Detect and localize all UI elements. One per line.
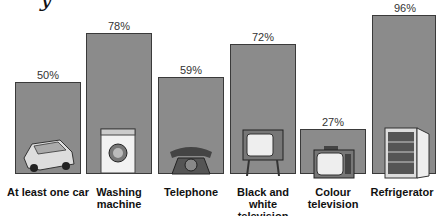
title-fragment: y (40, 0, 52, 11)
value-label: 27% (300, 116, 366, 128)
washing-machine-icon (99, 125, 139, 175)
category-label: Washing machine (82, 186, 156, 210)
value-label: 78% (86, 20, 152, 32)
colour-tv-icon (312, 146, 356, 180)
category-label: Black and white television (225, 186, 301, 216)
value-label: 50% (15, 69, 81, 81)
value-label: 59% (158, 64, 224, 76)
refrigerator-icon (383, 126, 431, 180)
value-label: 96% (372, 2, 436, 14)
category-label: Colour television (296, 186, 370, 210)
category-label: Telephone (150, 186, 232, 198)
black-white-tv-icon (241, 128, 285, 178)
car-icon (20, 128, 76, 178)
category-label: Refrigerator (364, 186, 436, 198)
value-label: 72% (230, 31, 296, 43)
telephone-icon (166, 144, 216, 176)
